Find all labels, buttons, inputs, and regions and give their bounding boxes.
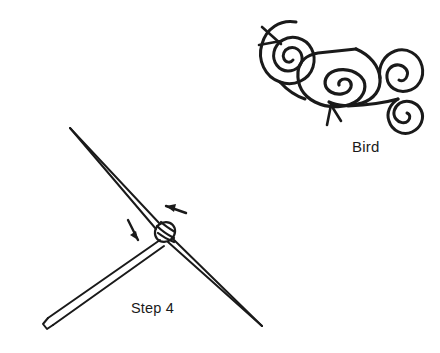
body-outer-sweep <box>329 49 380 106</box>
illustration-canvas: Bird Step 4 <box>0 0 440 353</box>
crossed-sticks-diagram <box>43 128 262 329</box>
head-spiral <box>261 21 315 83</box>
bird-spiral-motif <box>259 21 423 133</box>
illustration-svg <box>0 0 440 353</box>
wing-spiral <box>380 50 423 92</box>
tail-spiral <box>388 99 423 133</box>
bird-label: Bird <box>352 138 379 155</box>
step-label: Step 4 <box>131 300 174 316</box>
arrow-down-icon <box>128 220 138 240</box>
arrow-left-icon <box>166 204 186 213</box>
binding-knot <box>151 218 179 246</box>
